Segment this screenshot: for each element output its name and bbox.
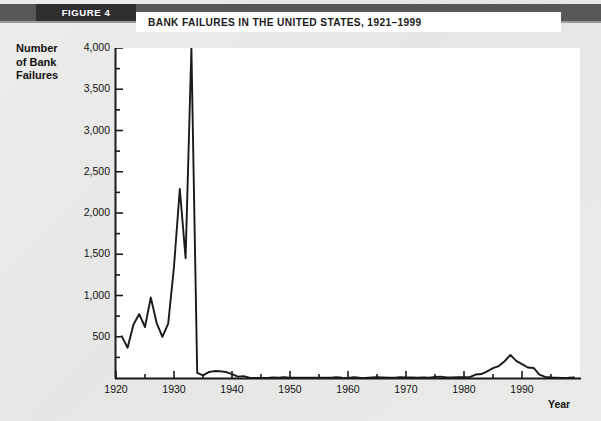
y-tick-label-3000: 3,000	[68, 124, 110, 136]
y-tick-label-2000: 2,000	[68, 206, 110, 218]
x-tick-label-1920: 1920	[96, 383, 136, 395]
y-tick-label-3500: 3,500	[68, 82, 110, 94]
y-tick-label-2500: 2,500	[68, 165, 110, 177]
y-axis-title-line-2: of Bank	[16, 56, 94, 70]
figure-number-tag: FIGURE 4	[36, 4, 136, 21]
y-tick-label-1500: 1,500	[68, 247, 110, 259]
x-tick-label-1970: 1970	[386, 383, 426, 395]
x-tick-label-1960: 1960	[328, 383, 368, 395]
x-tick-label-1940: 1940	[212, 383, 252, 395]
y-tick-label-500: 500	[68, 330, 110, 342]
x-tick-label-1980: 1980	[444, 383, 484, 395]
bank-failures-line-chart	[116, 48, 580, 378]
series-line-bank-failures	[122, 48, 574, 378]
y-tick-label-4000: 4,000	[68, 41, 110, 53]
y-axis-title-line-3: Failures	[16, 69, 94, 83]
y-tick-label-1000: 1,000	[68, 289, 110, 301]
plot-area	[116, 48, 580, 378]
x-tick-label-1950: 1950	[270, 383, 310, 395]
x-tick-label-1990: 1990	[502, 383, 542, 395]
x-axis-title: Year	[548, 398, 570, 410]
x-tick-label-1930: 1930	[154, 383, 194, 395]
figure-page: FIGURE 4 BANK FAILURES IN THE UNITED STA…	[0, 0, 601, 421]
figure-title-plate: BANK FAILURES IN THE UNITED STATES, 1921…	[136, 12, 561, 32]
figure-title: BANK FAILURES IN THE UNITED STATES, 1921…	[136, 17, 422, 28]
